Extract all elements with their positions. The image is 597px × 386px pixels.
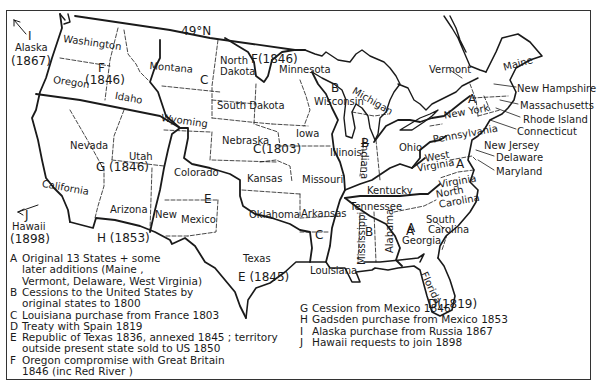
legend-key: A [10, 253, 22, 264]
legend-item: 1846 (inc Red River ) [10, 366, 133, 377]
state-label: Ohio [399, 142, 422, 153]
state-label: Carolina [428, 224, 469, 235]
legend-text: later additions (Maine , [22, 263, 143, 275]
state-label: Iowa [296, 128, 319, 139]
region-code-label: B [361, 137, 369, 150]
state-label: Arizona [110, 204, 148, 215]
region-code-label: A [407, 222, 415, 235]
boundary-florida [364, 254, 424, 262]
legend-key: H [300, 314, 312, 325]
legend-text: Original 13 States + some [22, 252, 160, 264]
region-code-label: C [200, 74, 208, 87]
state-label: Hawaii [12, 221, 46, 232]
state-label: North [220, 55, 248, 66]
region-code-label: B [331, 82, 339, 95]
state-label: Rhode Island [523, 114, 588, 125]
region-code-label: F(1846) [251, 53, 298, 66]
state-label: Alabama [384, 209, 395, 253]
legend-text: Cessions to the United States by [22, 286, 193, 298]
region-code-label: G (1846) [96, 161, 149, 174]
region-code-label: J [25, 209, 29, 222]
region-code-label: (1846) [85, 74, 125, 87]
region-code-label: E (1845) [238, 271, 289, 284]
legend-text: 1846 (inc Red River ) [22, 365, 133, 377]
legend-text: outside present state sold to US 1850 [22, 342, 220, 354]
state-label: Kentucky [367, 185, 413, 196]
state-label: Louisiana [310, 265, 357, 276]
legend-text: Vermont, Delaware, West Virginia) [22, 275, 202, 287]
state-label: Connecticut [517, 126, 577, 137]
region-code-label: A [468, 93, 476, 106]
legend-text: Republic of Texas 1836, annexed 1845 ; t… [22, 331, 278, 343]
state-label: Maryland [496, 166, 542, 177]
state-label: New Jersey [484, 140, 539, 151]
state-label: New [155, 209, 177, 220]
region-code-label: H (1853) [97, 232, 150, 245]
alaska-arrow-icon [14, 20, 26, 34]
legend-text: Oregon compromise with Great Britain [22, 354, 225, 366]
parallel-49-label: 49°N [181, 25, 211, 38]
region-code-label: A [456, 158, 464, 171]
legend-key: E [10, 332, 22, 343]
state-label: Kansas [247, 173, 282, 184]
state-label: South Dakota [217, 100, 285, 111]
region-code-label: (1898) [10, 233, 50, 246]
region-code-label: B [365, 226, 373, 239]
state-label: Nevada [70, 140, 108, 151]
legend-text: Treaty with Spain 1819 [22, 320, 143, 332]
state-label: Illinois [330, 147, 362, 158]
state-label: Mexico [181, 214, 216, 225]
state-label: Alaska [15, 42, 48, 53]
state-label: Oklahoma [249, 209, 300, 220]
region-code-label: I [28, 30, 32, 43]
region-code-label: E [204, 193, 212, 206]
state-label: Vermont [429, 64, 471, 75]
state-label: New Hampshire [517, 83, 596, 94]
region-code-label: C [315, 229, 323, 242]
state-label: Dakota [220, 66, 255, 77]
legend-text: Gadsden purchase from Mexico 1853 [312, 313, 508, 325]
legend-text: original states to 1800 [22, 297, 141, 309]
legend-item: JHawaii requests to join 1898 [300, 337, 462, 348]
boundary-F-G [36, 94, 180, 128]
legend-text: Louisiana purchase from France 1803 [22, 309, 219, 321]
legend-text: Cession from Mexico 1846 [312, 302, 451, 314]
state-label: Colorado [174, 167, 219, 178]
state-label: Texas [243, 253, 271, 264]
state-label: Arkansas [301, 208, 347, 219]
legend-key: F [10, 355, 22, 366]
state-label: Massachusetts [520, 100, 594, 111]
region-code-label: (1867) [11, 55, 51, 68]
legend-text: Alaska purchase from Russia 1867 [312, 325, 493, 337]
legend-key: J [300, 337, 312, 348]
state-label: Missouri [302, 174, 343, 185]
region-code-label: C(1803) [253, 143, 301, 156]
legend-key: B [10, 287, 22, 298]
legend-text: Hawaii requests to join 1898 [312, 336, 462, 348]
state-label: Delaware [496, 152, 543, 163]
